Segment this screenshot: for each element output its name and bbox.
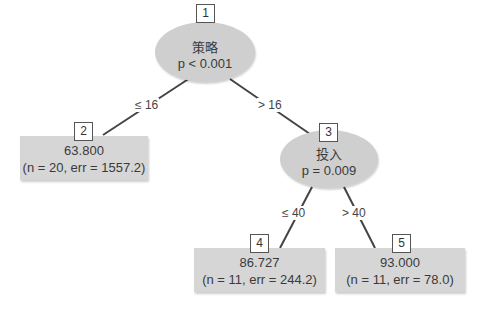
node-4-leaf: 86.727 (n = 11, err = 244.2) xyxy=(194,248,325,292)
edge-label-1-2: ≤ 16 xyxy=(134,98,159,112)
node-3-variable: 投入 xyxy=(316,147,342,163)
node-2-leaf: 63.800 (n = 20, err = 1557.2) xyxy=(20,136,148,180)
edge-label-3-4: ≤ 40 xyxy=(281,206,306,220)
node-5-detail: (n = 11, err = 78.0) xyxy=(346,271,453,288)
node-3-stat: p = 0.009 xyxy=(302,163,357,179)
node-1-variable: 策略 xyxy=(192,40,218,56)
node-1-ellipse: 策略 p < 0.001 xyxy=(155,22,255,82)
node-2-value: 63.800 xyxy=(64,142,104,159)
node-4-value: 86.727 xyxy=(240,254,280,271)
node-5-leaf: 93.000 (n = 11, err = 78.0) xyxy=(335,248,465,292)
node-3-id: 3 xyxy=(319,123,338,142)
node-1-stat: p < 0.001 xyxy=(178,56,233,72)
edge-label-3-5: > 40 xyxy=(341,206,367,220)
node-2-id: 2 xyxy=(74,122,93,141)
node-5-value: 93.000 xyxy=(380,254,420,271)
edge-label-1-3: > 16 xyxy=(257,98,283,112)
node-2-detail: (n = 20, err = 1557.2) xyxy=(23,159,146,176)
node-4-id: 4 xyxy=(250,234,269,253)
node-1-id: 1 xyxy=(196,4,215,23)
node-4-detail: (n = 11, err = 244.2) xyxy=(202,271,317,288)
node-5-id: 5 xyxy=(392,234,411,253)
